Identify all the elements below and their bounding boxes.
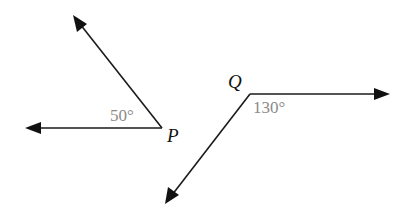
arrowhead-right-icon [374, 88, 390, 100]
angle-p: 50° P [25, 15, 179, 146]
angle-q: 130° Q [165, 71, 390, 204]
point-q-label: Q [228, 71, 242, 92]
angle-p-measure: 50° [110, 106, 134, 125]
angle-diagram: 50° P 130° Q [0, 0, 405, 218]
angle-q-measure: 130° [253, 98, 285, 117]
arrowhead-left-icon [25, 122, 41, 134]
point-p-label: P [166, 125, 179, 146]
ray-q-down-left [172, 94, 250, 195]
